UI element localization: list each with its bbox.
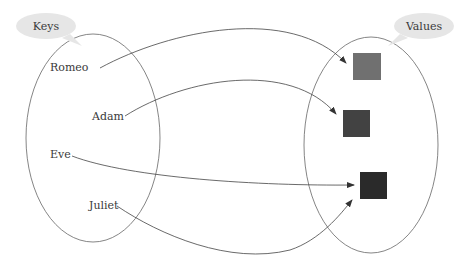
keys-bubble-label: Keys <box>33 20 60 33</box>
value-square-2 <box>343 110 370 137</box>
values-bubble-label: Values <box>405 20 443 33</box>
key-adam: Adam <box>91 110 125 123</box>
key-eve: Eve <box>50 148 71 161</box>
value-square-3 <box>360 172 387 199</box>
value-square-1 <box>353 53 381 80</box>
values-bubble: Values <box>388 13 454 46</box>
keys-bubble: Keys <box>16 13 82 46</box>
key-juliet: Juliet <box>88 199 119 212</box>
keys-values-diagram: Keys Values Romeo Adam Eve Juliet <box>0 0 466 262</box>
key-romeo: Romeo <box>50 61 89 74</box>
arrow-eve-to-value-3 <box>72 156 354 185</box>
arrow-romeo-to-value-1 <box>100 29 346 68</box>
arrow-adam-to-value-2 <box>125 80 336 116</box>
